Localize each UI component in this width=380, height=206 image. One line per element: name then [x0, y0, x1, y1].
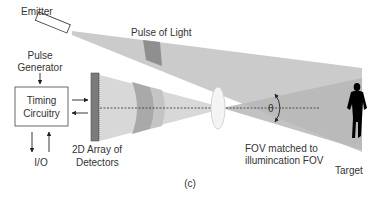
- fov-label-1: FOV matched to: [245, 143, 318, 154]
- timing-circuitry-box: [15, 87, 68, 126]
- theta-label: θ: [268, 103, 274, 114]
- fov-label-2: illumincation FOV: [245, 155, 324, 166]
- pulse-generator-label-2: Generator: [17, 62, 63, 73]
- emitter-label: Emitter: [21, 6, 53, 17]
- detector-label-1: 2D Array of: [72, 144, 122, 155]
- pulse-generator-label-1: Pulse: [27, 50, 52, 61]
- io-label: I/O: [34, 157, 48, 168]
- detector-array-icon: [91, 73, 99, 141]
- pulse-of-light-label: Pulse of Light: [131, 27, 192, 38]
- timing-label-2: Circuitry: [23, 108, 60, 119]
- figure-caption: (c): [184, 178, 196, 189]
- lens-icon: [211, 87, 225, 129]
- lidar-flash-diagram: θ Emitter Pulse of Light Pulse Generator…: [0, 0, 380, 206]
- detector-label-2: Detectors: [76, 157, 119, 168]
- timing-label-1: Timing: [27, 95, 57, 106]
- target-label: Target: [335, 165, 363, 176]
